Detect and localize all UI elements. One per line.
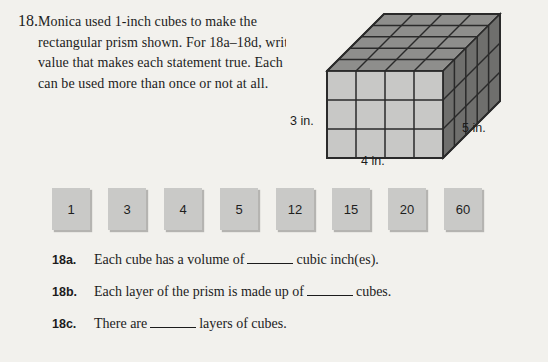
answer-tile[interactable]: 15 bbox=[332, 188, 370, 230]
statement-text-after: cubic inch(es). bbox=[296, 252, 378, 268]
answer-tile[interactable]: 12 bbox=[276, 188, 314, 230]
answer-blank[interactable] bbox=[307, 295, 353, 296]
answer-tile[interactable]: 5 bbox=[220, 188, 258, 230]
answer-tile[interactable]: 3 bbox=[108, 188, 146, 230]
answer-tile[interactable]: 20 bbox=[388, 188, 426, 230]
question-stem: 18. Monica used 1-inch cubes to make the… bbox=[18, 12, 318, 94]
prism-drawing bbox=[286, 4, 544, 174]
statement-text-before: Each cube has a volume of bbox=[94, 252, 244, 268]
prism-faces bbox=[286, 4, 544, 174]
statement-label: 18b. bbox=[52, 285, 94, 299]
statement-label: 18c. bbox=[52, 317, 94, 331]
prism-height-label: 3 in. bbox=[290, 114, 314, 128]
question-text: Monica used 1-inch cubes to make the rec… bbox=[38, 12, 318, 94]
prism-width-label: 4 in. bbox=[361, 154, 385, 168]
answer-blank[interactable] bbox=[150, 327, 196, 328]
statement-row: 18a. Each cube has a volume of cubic inc… bbox=[52, 252, 512, 284]
statement-row: 18c. There are layers of cubes. bbox=[52, 316, 512, 348]
prism-depth-label: 5 in. bbox=[462, 121, 486, 135]
answer-tile[interactable]: 60 bbox=[444, 188, 482, 230]
statement-text-before: Each layer of the prism is made up of bbox=[94, 284, 304, 300]
answer-blank[interactable] bbox=[247, 263, 293, 264]
statement-text-before: There are bbox=[94, 316, 147, 332]
statement-label: 18a. bbox=[52, 253, 94, 267]
statement-list: 18a. Each cube has a volume of cubic inc… bbox=[52, 252, 512, 348]
answer-tile-bank: 1 3 4 5 12 15 20 60 bbox=[52, 188, 482, 230]
answer-tile[interactable]: 1 bbox=[52, 188, 90, 230]
answer-tile[interactable]: 4 bbox=[164, 188, 202, 230]
statement-text-after: cubes. bbox=[356, 284, 391, 300]
rectangular-prism-figure: 3 in. 4 in. 5 in. bbox=[286, 4, 544, 174]
statement-text-after: layers of cubes. bbox=[199, 316, 286, 332]
question-number: 18. bbox=[18, 12, 38, 30]
statement-row: 18b. Each layer of the prism is made up … bbox=[52, 284, 512, 316]
